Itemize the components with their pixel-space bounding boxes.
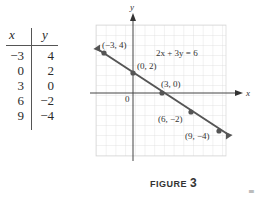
figure-caption-number: 3	[190, 176, 197, 190]
data-point	[101, 50, 106, 55]
data-point	[159, 90, 164, 95]
figure-caption-word: FIGURE	[150, 179, 187, 189]
point-label: (9, −4)	[185, 131, 210, 141]
point-label: (−3, 4)	[102, 40, 127, 50]
menu-icon: ≡	[248, 187, 255, 196]
data-point	[130, 70, 135, 75]
x-axis-label: x	[245, 88, 250, 98]
figure-caption: FIGURE 3	[150, 176, 197, 190]
coordinate-graph: y x 0 2x + 3y = 6 (−3, 4) (0, 2) (3, 0) …	[0, 0, 259, 201]
x-axis-arrow-icon	[235, 90, 243, 96]
data-point	[216, 128, 221, 133]
y-axis-arrow-icon	[130, 13, 136, 21]
point-label: (0, 2)	[137, 61, 157, 71]
point-label: (3, 0)	[161, 79, 181, 89]
origin-label: 0	[125, 94, 130, 104]
point-label: (6, −2)	[158, 114, 183, 124]
data-point	[188, 109, 193, 114]
y-axis-label: y	[129, 2, 134, 12]
equation-label: 2x + 3y = 6	[156, 48, 198, 58]
